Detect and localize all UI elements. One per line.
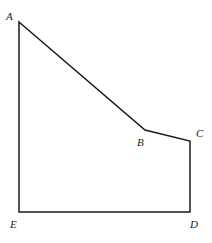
vertex-label-e: E	[10, 219, 17, 230]
vertex-label-c: C	[196, 128, 203, 139]
geometry-figure: A B C D E	[0, 0, 212, 243]
vertex-label-a: A	[6, 11, 13, 22]
figure-background	[0, 0, 212, 243]
pentagon-shape	[0, 0, 212, 243]
vertex-label-d: D	[190, 219, 198, 230]
vertex-label-b: B	[137, 137, 144, 148]
